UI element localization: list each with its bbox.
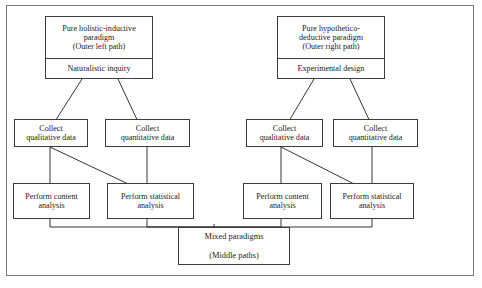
right-path-header-subtitle: Experimental design [278,58,384,78]
left-collect-quantitative-box: Collect quantitative data [105,119,190,147]
left-perform-content-line-1: Perform content [25,192,77,201]
mixed-paradigms-box: Mixed paradigms (Middle paths) [178,227,290,265]
right-collect-qualitative-line-2: qualitative data [260,133,310,142]
left-path-title-line-1: Pure holistic-inductive [62,24,136,33]
right-collect-quantitative-line-2: quantitative data [349,133,403,142]
diagram-page: Pure holistic-inductive paradigm (Outer … [0,0,482,288]
right-perform-content-line-1: Perform content [256,192,308,201]
left-path-subtitle-text: Naturalistic inquiry [67,64,130,73]
right-collect-qualitative-box: Collect qualitative data [246,119,323,147]
mixed-paradigms-line-2: (Middle paths) [209,251,259,260]
right-path-title-line-2: deductive paradigm [299,33,363,42]
left-path-header-box: Pure holistic-inductive paradigm (Outer … [45,16,153,79]
left-collect-qualitative-box: Collect qualitative data [14,119,88,147]
right-perform-statistical-box: Perform statistical analysis [330,183,414,219]
figure-caption [10,279,210,287]
right-path-header-title: Pure hypothetico- deductive paradigm (Ou… [278,17,384,58]
left-collect-quantitative-line-1: Collect [136,124,159,133]
right-perform-statistical-line-1: Perform statistical [342,192,401,201]
right-collect-quantitative-box: Collect quantitative data [333,119,418,147]
left-perform-statistical-box: Perform statistical analysis [107,183,194,219]
left-perform-content-box: Perform content analysis [13,183,90,219]
right-path-title-line-1: Pure hypothetico- [302,24,360,33]
left-perform-content-line-2: analysis [38,201,64,210]
left-collect-qualitative-line-2: qualitative data [26,133,76,142]
right-collect-quantitative-line-1: Collect [364,124,387,133]
right-path-subtitle-text: Experimental design [298,64,365,73]
left-collect-quantitative-line-2: quantitative data [121,133,175,142]
right-perform-content-line-2: analysis [269,201,295,210]
left-path-header-subtitle: Naturalistic inquiry [46,58,152,78]
right-perform-statistical-line-2: analysis [359,201,385,210]
right-perform-content-box: Perform content analysis [243,183,322,219]
left-perform-statistical-line-2: analysis [137,201,163,210]
left-path-title-line-3: (Outer left path) [73,42,126,51]
right-path-header-box: Pure hypothetico- deductive paradigm (Ou… [277,16,385,79]
mixed-paradigms-line-1: Mixed paradigms [205,232,264,241]
left-path-title-line-2: paradigm [84,33,115,42]
left-perform-statistical-line-1: Perform statistical [121,192,180,201]
right-path-title-line-3: (Outer right path) [302,42,359,51]
left-path-header-title: Pure holistic-inductive paradigm (Outer … [46,17,152,58]
right-collect-qualitative-line-1: Collect [273,124,296,133]
left-collect-qualitative-line-1: Collect [39,124,62,133]
